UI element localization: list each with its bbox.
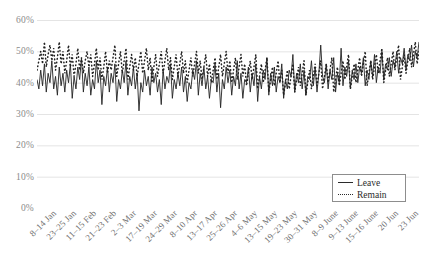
- dotted-line-swatch-icon: [337, 190, 355, 200]
- chart-legend: Leave Remain: [332, 174, 406, 202]
- y-axis-tick-label: 60%: [16, 15, 34, 25]
- legend-label-remain: Remain: [355, 189, 387, 201]
- y-axis-tick-label: 50%: [16, 46, 34, 56]
- x-axis: 8–14 Jan23–25 Jan11–15 Feb21–23 Feb2–3 M…: [0, 208, 426, 272]
- legend-item-remain: Remain: [337, 189, 402, 201]
- poll-tracker-chart: 0%10%20%30%40%50%60% 8–14 Jan23–25 Jan11…: [0, 0, 426, 272]
- x-axis-tick-label: 23 Jun: [396, 208, 420, 232]
- y-axis-tick-label: 30%: [16, 109, 34, 119]
- x-axis-tick-label: 20 Jun: [376, 208, 400, 232]
- legend-item-leave: Leave: [337, 177, 402, 189]
- y-axis-tick-label: 10%: [16, 172, 34, 182]
- legend-label-leave: Leave: [355, 177, 380, 189]
- y-axis-tick-label: 20%: [16, 140, 34, 150]
- solid-line-swatch-icon: [337, 178, 355, 188]
- y-axis-tick-label: 40%: [16, 78, 34, 88]
